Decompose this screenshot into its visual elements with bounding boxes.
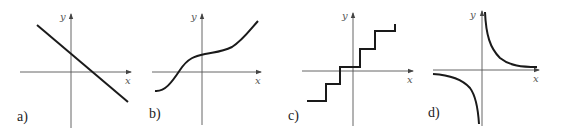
cubic-like-curve (155, 21, 258, 91)
panel-label: a) (17, 109, 28, 125)
panel-a: y x a) (17, 11, 131, 128)
step-function-curve (307, 24, 395, 101)
function-graphs-figure: y x a) y x b) y x c) y x d) (0, 0, 562, 134)
y-axis-label: y (59, 11, 66, 22)
x-axis-label: x (407, 74, 413, 85)
y-axis-label: y (341, 10, 348, 21)
panel-c: y x c) (288, 10, 413, 126)
panel-label: c) (288, 108, 299, 124)
linear-decreasing-curve (37, 25, 128, 102)
panel-label: d) (428, 105, 440, 121)
y-axis-label: y (190, 11, 197, 22)
x-axis-label: x (533, 73, 539, 84)
hyperbola-right-branch (485, 12, 537, 67)
x-axis-label: x (255, 75, 261, 86)
x-axis-label: x (125, 75, 131, 86)
panel-label: b) (149, 106, 161, 122)
panel-d: y x d) (428, 9, 539, 126)
hyperbola-left-branch (433, 74, 479, 124)
y-axis-label: y (469, 9, 476, 20)
panel-b: y x b) (149, 11, 261, 125)
